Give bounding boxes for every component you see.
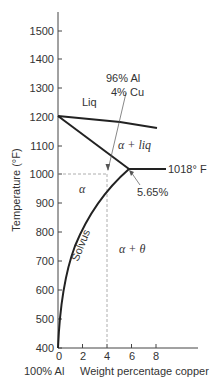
alloy-label-al: 96% Al [106, 72, 140, 84]
x-tick-4: 4 [104, 350, 110, 362]
x-axis-label: Weight percentage copper [80, 365, 209, 377]
y-tick-labels: 400 500 600 700 800 900 1000 1100 1200 1… [30, 25, 54, 354]
alloy-label-cu: 4% Cu [111, 86, 144, 98]
alloy-pointer-line [108, 93, 126, 170]
region-alpha: α [79, 182, 86, 196]
alloy-arrowhead-icon [106, 164, 111, 171]
x-tick-2: 2 [80, 350, 86, 362]
x-origin-label: 100% Al [24, 365, 64, 377]
eutectic-temp-label: 1018° F [168, 163, 207, 175]
x-tick-0: 0 [56, 350, 62, 362]
x-tick-labels: 0 2 4 6 8 [56, 350, 159, 362]
y-tick-1500: 1500 [30, 25, 54, 37]
y-tick-1300: 1300 [30, 82, 54, 94]
y-tick-800: 800 [36, 226, 54, 238]
y-tick-1000: 1000 [30, 168, 54, 180]
phase-diagram: 400 500 600 700 800 900 1000 1100 1200 1… [0, 0, 216, 379]
y-tick-1400: 1400 [30, 53, 54, 65]
y-tick-900: 900 [36, 197, 54, 209]
x-tick-8: 8 [153, 350, 159, 362]
y-tick-600: 600 [36, 284, 54, 296]
y-tick-400: 400 [36, 342, 54, 354]
y-axis-label: Temperature (°F) [10, 148, 22, 231]
max-solubility-label: 5.65% [137, 186, 168, 198]
region-liquid: Liq [82, 96, 97, 108]
x-tick-6: 6 [129, 350, 135, 362]
y-tick-500: 500 [36, 313, 54, 325]
region-alpha-liquid: α + liq [118, 138, 151, 152]
y-tick-1200: 1200 [30, 111, 54, 123]
y-tick-700: 700 [36, 255, 54, 267]
x-ticks [83, 344, 157, 348]
solvus-label: Solvus [69, 227, 93, 263]
region-alpha-theta: α + θ [119, 242, 145, 256]
y-tick-1100: 1100 [30, 140, 54, 152]
